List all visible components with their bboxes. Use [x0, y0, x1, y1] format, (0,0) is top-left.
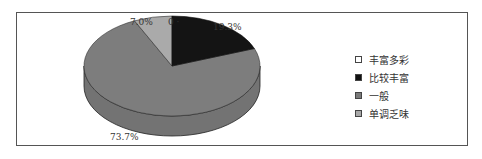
legend-label: 比较丰富	[369, 70, 409, 85]
label-zero: 0 ·	[168, 17, 179, 27]
legend-label: 丰富多彩	[369, 52, 409, 67]
legend-swatch-bijiao	[355, 74, 362, 81]
label-dandiao: 7.0%	[130, 17, 153, 27]
legend-item: 丰富多彩	[355, 50, 409, 68]
legend-item: 单调乏味	[355, 104, 409, 122]
label-zero-text: 0	[168, 17, 174, 27]
legend-swatch-dandiao	[355, 110, 362, 117]
legend-label: 单调乏味	[369, 106, 409, 121]
legend-swatch-yiban	[355, 92, 362, 99]
label-bijiao: 19.3%	[213, 22, 242, 32]
legend-item: 一般	[355, 86, 409, 104]
legend-label: 一般	[369, 88, 389, 103]
label-yiban: 73.7%	[110, 132, 139, 142]
legend-swatch-fengfu	[355, 56, 362, 63]
legend: 丰富多彩 比较丰富 一般 单调乏味	[355, 50, 409, 122]
legend-item: 比较丰富	[355, 68, 409, 86]
